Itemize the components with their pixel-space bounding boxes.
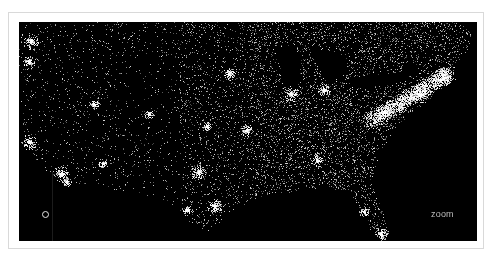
zoom-button[interactable]: zoom (431, 209, 454, 219)
us-city-lights-map[interactable]: zoom (19, 22, 477, 241)
location-ring-icon[interactable] (42, 211, 49, 218)
map-edge-line (52, 172, 53, 241)
dot-density-layer (19, 22, 477, 241)
